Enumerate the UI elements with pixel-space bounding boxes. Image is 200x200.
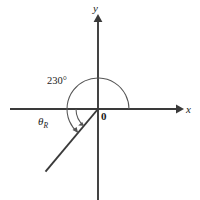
- x-axis-arrowhead-icon: [176, 105, 184, 114]
- terminal-ray-line: [46, 109, 99, 172]
- origin-label: 0: [101, 111, 107, 122]
- x-axis-label: x: [186, 104, 191, 115]
- reference-angle-subscript: R: [43, 121, 48, 130]
- y-axis-arrowhead-icon: [94, 14, 103, 22]
- angle-measure-label: 230°: [47, 76, 67, 87]
- y-axis-label: y: [93, 3, 98, 14]
- angle-diagram-figure: y x 0 230° θR: [0, 0, 200, 200]
- coordinate-plane-svg: [0, 0, 200, 200]
- reference-angle-label: θR: [38, 116, 48, 130]
